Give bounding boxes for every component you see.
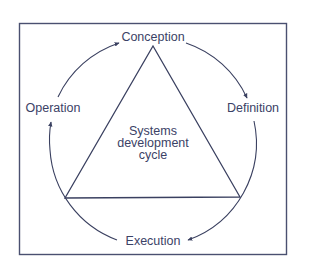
arrow-definition-to-execution — [188, 121, 256, 240]
stage-label-conception: Conception — [121, 31, 184, 44]
stage-label-definition: Definition — [227, 102, 279, 115]
arrow-operation-to-conception — [58, 43, 119, 97]
development-triangle — [65, 46, 240, 198]
stage-label-operation: Operation — [26, 102, 81, 115]
stage-label-execution: Execution — [126, 235, 181, 248]
center-label: Systems development cycle — [117, 125, 189, 161]
arrow-conception-to-definition — [186, 43, 247, 98]
arc-execution-left — [50, 150, 117, 240]
center-label-line-3: cycle — [117, 149, 189, 161]
arrow-execution-to-operation — [49, 122, 51, 150]
